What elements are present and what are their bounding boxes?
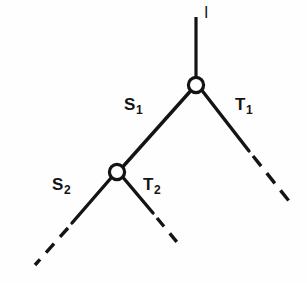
edge-s2-dashed	[35, 228, 68, 265]
tree-diagram-svg	[0, 0, 307, 283]
label-edge-s1-base: S	[124, 95, 136, 114]
label-edge-t1: T1	[235, 96, 253, 116]
edge-s2-solid	[72, 178, 111, 223]
label-root-edge: I	[204, 5, 208, 21]
label-edge-s2: S2	[52, 176, 71, 196]
label-edge-t1-base: T	[235, 95, 246, 114]
node-circle-lower	[109, 164, 124, 179]
label-edge-s1-subscript: 1	[136, 103, 143, 117]
node-circle-upper	[188, 77, 203, 92]
label-edge-s1: S1	[124, 96, 143, 116]
edge-t2-dashed	[157, 218, 181, 247]
label-edge-t2-subscript: 2	[154, 183, 161, 197]
label-edge-s2-subscript: 2	[64, 183, 71, 197]
label-edge-t2-base: T	[143, 175, 154, 194]
figure-root: I S1 T1 S2 T2	[0, 0, 307, 283]
edge-t1-dashed	[253, 156, 289, 201]
label-edge-t1-subscript: 1	[246, 103, 253, 117]
label-edge-s2-base: S	[52, 175, 64, 194]
label-edge-t2: T2	[143, 176, 161, 196]
